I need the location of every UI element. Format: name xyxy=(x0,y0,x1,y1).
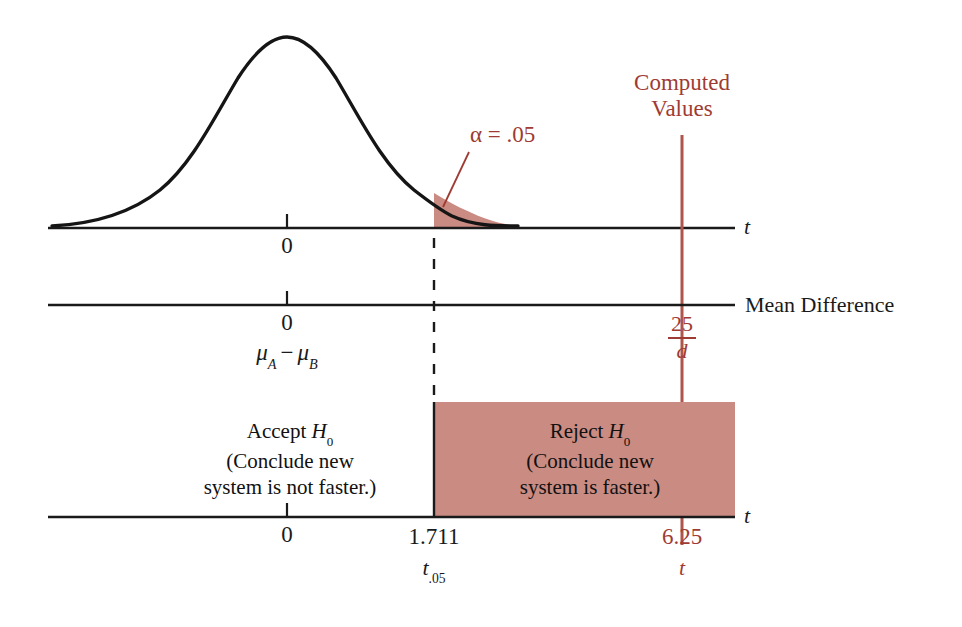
alpha-annotation-label: α = .05 xyxy=(470,122,535,148)
mu-b-subscript: B xyxy=(309,356,318,372)
top-axis-t-label: t xyxy=(744,215,750,240)
accept-region-line-2: (Conclude new xyxy=(150,448,430,474)
reject-h-symbol: H xyxy=(609,419,624,443)
bottom-axis-zero-label: 0 xyxy=(281,522,293,548)
accept-h-symbol: H xyxy=(312,419,327,443)
middle-axis-zero-label: 0 xyxy=(281,310,293,336)
accept-region-text: Accept H0 (Conclude new system is not fa… xyxy=(150,418,430,500)
fraction: 25 d xyxy=(668,312,696,363)
computed-values-line-1: Computed xyxy=(634,70,730,96)
critical-t-subscript: .05 xyxy=(429,571,446,586)
accept-region-line-1: Accept H0 xyxy=(150,418,430,448)
reject-h-subscript: 0 xyxy=(624,434,631,449)
critical-value-symbol: t.05 xyxy=(422,556,445,584)
computed-value-symbol: t xyxy=(679,556,685,581)
computed-values-line-2: Values xyxy=(634,96,730,122)
mean-difference-parameter-label: μA−μB xyxy=(256,340,318,370)
computed-value-label: 6.25 xyxy=(662,524,702,550)
reject-region-text: Reject H0 (Conclude new system is faster… xyxy=(450,418,730,500)
reject-prefix: Reject xyxy=(550,419,609,443)
accept-region-line-3: system is not faster.) xyxy=(150,474,430,500)
accept-prefix: Accept xyxy=(247,419,312,443)
computed-values-heading: Computed Values xyxy=(634,70,730,122)
fraction-denominator: d xyxy=(668,337,696,364)
accept-h-subscript: 0 xyxy=(327,434,334,449)
fraction-numerator: 25 xyxy=(668,312,696,337)
top-axis-zero-label: 0 xyxy=(281,233,293,259)
mean-difference-axis-label: Mean Difference xyxy=(745,293,894,318)
mu-a-symbol: μ xyxy=(256,340,268,365)
bottom-axis-t-label: t xyxy=(744,504,750,529)
reject-region-line-2: (Conclude new xyxy=(450,448,730,474)
statistics-figure: α = .05 0 t Computed Values 0 μA−μB 25 d… xyxy=(0,0,962,627)
mu-b-symbol: μ xyxy=(297,340,309,365)
mu-a-subscript: A xyxy=(268,356,277,372)
critical-value-label: 1.711 xyxy=(409,524,460,550)
computed-mean-difference-fraction: 25 d xyxy=(668,312,696,363)
reject-region-line-1: Reject H0 xyxy=(450,418,730,448)
reject-region-line-3: system is faster.) xyxy=(450,474,730,500)
minus-sign: − xyxy=(277,340,298,365)
alpha-leader-line xyxy=(443,152,469,207)
